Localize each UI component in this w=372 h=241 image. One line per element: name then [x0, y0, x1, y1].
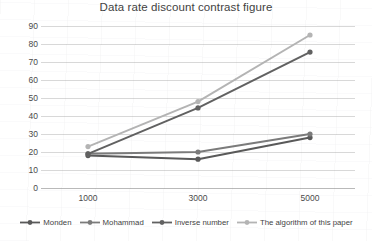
y-axis-tick-0: 0 — [12, 183, 38, 193]
data-point — [307, 131, 312, 136]
y-axis-tick-50: 50 — [12, 93, 38, 103]
data-point — [195, 105, 200, 110]
chart-plot-area — [0, 0, 372, 241]
data-point — [307, 32, 312, 37]
y-axis-tick-30: 30 — [12, 129, 38, 139]
x-axis-tick-1000: 1000 — [79, 193, 98, 203]
y-axis-tick-80: 80 — [12, 39, 38, 49]
y-axis-tick-labels: 9080706050403020100 — [0, 0, 38, 241]
y-axis-tick-10: 10 — [12, 165, 38, 175]
y-axis-tick-60: 60 — [12, 75, 38, 85]
series-the-algorithm-of-this-paper — [85, 32, 312, 149]
y-axis-tick-40: 40 — [12, 111, 38, 121]
data-point — [307, 50, 312, 55]
series-line — [88, 35, 310, 147]
data-point — [85, 151, 90, 156]
x-axis-tick-5000: 5000 — [301, 193, 320, 203]
chart-title: Data rate discount contrast figure — [0, 1, 372, 13]
data-point — [85, 144, 90, 149]
x-axis-tick-3000: 3000 — [189, 193, 208, 203]
data-point — [195, 99, 200, 104]
chart-canvas: Data rate discount contrast figure 90807… — [0, 0, 372, 241]
data-point — [195, 157, 200, 162]
y-axis-tick-20: 20 — [12, 147, 38, 157]
data-point — [195, 149, 200, 154]
y-axis-tick-90: 90 — [12, 21, 38, 31]
y-axis-tick-70: 70 — [12, 57, 38, 67]
